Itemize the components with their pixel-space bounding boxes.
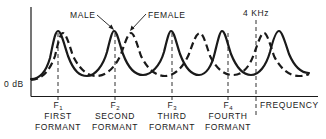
formant-3-word: FORMANT <box>149 123 195 132</box>
formant-2-word: FORMANT <box>92 123 138 132</box>
formant-4-word: FORMANT <box>205 123 251 132</box>
formant-4-symbol: F4 <box>223 101 232 111</box>
male-pointer-line <box>97 15 112 28</box>
zero-db-label: 0 dB <box>4 80 24 89</box>
frequency-axis-label: FREQUENCY <box>260 101 319 110</box>
formant-2-name: SECOND <box>95 112 135 121</box>
4khz-label: 4 KHz <box>243 9 269 18</box>
female-pointer-line <box>132 14 146 29</box>
formant-1-name: FIRST <box>44 112 72 121</box>
formant-4-name: FOURTH <box>209 112 248 121</box>
legend-male-label: MALE <box>70 11 96 20</box>
formant-2-symbol: F2 <box>110 101 119 111</box>
formant-3-name: THIRD <box>158 112 187 121</box>
legend-female-label: FEMALE <box>148 11 186 20</box>
formant-1-word: FORMANT <box>35 123 81 132</box>
female-spectrum-curve <box>31 33 309 80</box>
female-pointer-arrowhead <box>130 26 135 32</box>
formant-3-symbol: F3 <box>167 101 176 111</box>
formant-1-symbol: F1 <box>53 101 62 111</box>
